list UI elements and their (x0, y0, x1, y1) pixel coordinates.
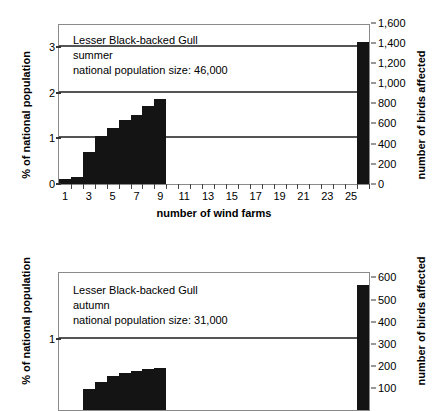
x-tick-label: 17 (250, 190, 262, 202)
y-tick-right: 200 (378, 360, 396, 372)
y-tick-left: 1 (49, 132, 55, 144)
x-tick (95, 184, 96, 189)
y-tick-right: 1,600 (378, 17, 406, 29)
x-tick (262, 184, 263, 189)
x-tick (202, 184, 203, 189)
x-tick (333, 184, 334, 189)
x-tick-label: 23 (321, 190, 333, 202)
bar (71, 177, 83, 184)
plot-area-autumn: Lesser Black-backed Gull autumn national… (58, 272, 370, 411)
x-tick-label: 1 (62, 190, 68, 202)
y-tick-right: 400 (378, 138, 396, 150)
x-tick-label: 11 (178, 190, 189, 202)
y-tick-right: 500 (378, 294, 396, 306)
bar (357, 285, 369, 410)
bar (154, 368, 166, 410)
y-tick-right: 800 (378, 97, 396, 109)
y-tick-right: 600 (378, 271, 396, 283)
bar (83, 152, 95, 184)
x-tick (226, 184, 227, 189)
y-axis-label-right-top: number of birds affected (415, 45, 427, 185)
bar (107, 128, 119, 184)
y-tick-left: 3 (49, 41, 55, 53)
x-tick (250, 184, 251, 189)
x-tick (178, 184, 179, 189)
y-tick-right: 1,000 (378, 77, 406, 89)
x-tick (71, 184, 72, 189)
x-tick (369, 184, 370, 189)
x-tick (107, 184, 108, 189)
x-tick (238, 184, 239, 189)
x-tick (214, 184, 215, 189)
x-tick-label: 25 (345, 190, 357, 202)
x-tick-label: 3 (86, 190, 92, 202)
x-tick (119, 184, 120, 189)
x-tick (274, 184, 275, 189)
x-tick (154, 184, 155, 189)
y-tick-left: 0 (49, 178, 55, 190)
x-tick (321, 184, 322, 189)
y-tick-right: 400 (378, 316, 396, 328)
x-tick (142, 184, 143, 189)
x-tick (345, 184, 346, 189)
y-tick-left: 1 (49, 333, 55, 345)
x-tick (131, 184, 132, 189)
bar (154, 99, 166, 184)
x-tick-label: 21 (297, 190, 309, 202)
y-tick-right: 200 (378, 158, 396, 170)
bar (142, 369, 154, 410)
bar (107, 376, 119, 410)
x-tick (286, 184, 287, 189)
chart-summer: % of national population number of birds… (0, 0, 443, 230)
x-tick (357, 184, 358, 189)
y-tick-right: 600 (378, 117, 396, 129)
bar (95, 382, 107, 410)
x-tick (309, 184, 310, 189)
y-tick-right: 0 (378, 178, 384, 190)
bar (131, 115, 143, 184)
y-tick-right: 1,400 (378, 37, 406, 49)
x-tick-label: 9 (157, 190, 163, 202)
figure-container: % of national population number of birds… (0, 0, 443, 411)
bar (95, 136, 107, 184)
x-tick (83, 184, 84, 189)
bar (119, 120, 131, 184)
bar (142, 106, 154, 184)
y-tick-right: 1,200 (378, 57, 406, 69)
bar (131, 371, 143, 410)
x-axis-label-top: number of wind farms (59, 207, 369, 219)
y-axis-label-left-top: % of national population (20, 45, 32, 185)
y-tick-right: 300 (378, 338, 396, 350)
bar-series-autumn (59, 273, 369, 410)
plot-area-summer: Lesser Black-backed Gull summer national… (58, 24, 370, 185)
chart-autumn: % of national population number of birds… (0, 230, 443, 411)
x-tick-label: 19 (273, 190, 285, 202)
y-tick-left: 2 (49, 87, 55, 99)
x-tick (166, 184, 167, 189)
y-axis-label-left-bottom: % of national population (20, 251, 32, 391)
y-tick-right: 100 (378, 382, 396, 394)
x-tick-label: 5 (110, 190, 116, 202)
bar (83, 389, 95, 410)
x-tick (190, 184, 191, 189)
x-tick-label: 7 (133, 190, 139, 202)
x-tick-label: 13 (202, 190, 214, 202)
x-tick-label: 15 (226, 190, 238, 202)
bar (119, 373, 131, 410)
x-tick (297, 184, 298, 189)
bar-series-summer (59, 25, 369, 184)
y-axis-label-right-bottom: number of birds affected (415, 251, 427, 391)
bar (357, 42, 369, 184)
